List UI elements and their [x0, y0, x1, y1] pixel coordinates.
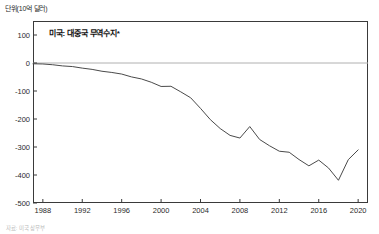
chart-container: 단위(10억 달러) 미국: 대중국 무역수지* 1000-100-200-30…	[0, 0, 379, 234]
data-series-group	[33, 64, 358, 181]
chart-canvas	[0, 0, 379, 234]
x-tick-label: 2012	[271, 206, 288, 215]
x-tick-label: 2020	[350, 206, 367, 215]
x-tick-label: 1996	[113, 206, 130, 215]
x-tick-label: 2008	[232, 206, 249, 215]
x-tick-label: 1992	[74, 206, 91, 215]
x-tick-label: 2000	[153, 206, 170, 215]
trade-balance-line	[33, 64, 358, 181]
source-footnote: 자료: 미국 상무부	[6, 224, 45, 232]
y-tick-marks-group	[33, 35, 37, 203]
x-tick-label: 2004	[192, 206, 209, 215]
x-tick-label: 1988	[35, 206, 52, 215]
x-tick-label: 2016	[310, 206, 327, 215]
x-tick-marks-group	[43, 199, 358, 203]
